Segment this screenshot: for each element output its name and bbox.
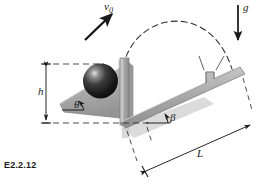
- gravity-label: g: [243, 2, 249, 13]
- trajectory-arc: [123, 21, 233, 72]
- velocity-arrow: [85, 14, 112, 40]
- height-label: h: [38, 86, 44, 97]
- beta-label: β: [170, 112, 175, 123]
- figure-caption: E2.2.12: [4, 160, 36, 170]
- velocity-label: v0: [104, 1, 113, 15]
- velocity-subscript: 0: [109, 6, 113, 15]
- length-label: L: [197, 148, 203, 159]
- ball: [83, 64, 119, 100]
- physics-figure: v0 g h θ β L E2.2.12: [0, 0, 261, 187]
- theta-label: θ: [74, 99, 79, 110]
- support-post: [120, 58, 129, 125]
